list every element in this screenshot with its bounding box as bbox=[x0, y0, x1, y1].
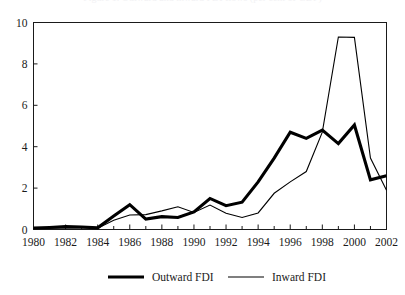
y-tick-label-2: 2 bbox=[22, 182, 28, 194]
x-tick-label-2000: 2000 bbox=[343, 236, 366, 248]
figure-container: Figure 1. Outward and inward FDI flows (… bbox=[0, 0, 405, 295]
y-tick-label-6: 6 bbox=[22, 99, 28, 111]
chart-legend: Outward FDI Inward FDI bbox=[108, 271, 326, 283]
x-tick-label-1988: 1988 bbox=[150, 236, 173, 248]
x-tick-label-1982: 1982 bbox=[54, 236, 77, 248]
x-tick-label-1990: 1990 bbox=[182, 236, 205, 248]
x-tick-label-1996: 1996 bbox=[279, 236, 302, 248]
legend-label-outward-fdi: Outward FDI bbox=[152, 271, 214, 283]
y-tick-label-0: 0 bbox=[22, 224, 28, 236]
x-tick-label-1986: 1986 bbox=[118, 236, 141, 248]
x-tick-label-1984: 1984 bbox=[86, 236, 109, 248]
y-tick-label-4: 4 bbox=[22, 141, 28, 153]
y-axis-tick-marks bbox=[34, 23, 38, 230]
line-chart: 0246810 19801982198419861988199019921994… bbox=[0, 0, 405, 295]
x-tick-label-1994: 1994 bbox=[247, 236, 270, 248]
y-tick-label-10: 10 bbox=[16, 17, 28, 29]
x-tick-label-1992: 1992 bbox=[215, 236, 238, 248]
legend-label-inward-fdi: Inward FDI bbox=[272, 271, 326, 283]
y-axis-tick-labels: 0246810 bbox=[16, 17, 28, 236]
series-line-outward-fdi bbox=[34, 125, 387, 228]
x-axis-tick-labels: 1980198219841986198819901992199419961998… bbox=[22, 236, 398, 248]
x-tick-label-1980: 1980 bbox=[22, 236, 45, 248]
x-tick-label-1998: 1998 bbox=[311, 236, 334, 248]
y-tick-label-8: 8 bbox=[22, 58, 28, 70]
x-tick-label-2002: 2002 bbox=[375, 236, 398, 248]
